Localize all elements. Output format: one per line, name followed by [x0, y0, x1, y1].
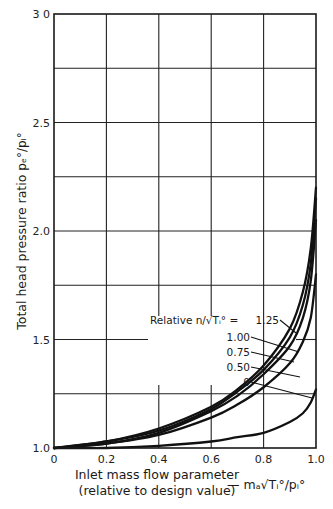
x-tick-label: 1.0	[307, 453, 325, 466]
x-axis-formula: — mₐ√Tᵢ°/pᵢ°	[227, 477, 305, 492]
x-tick-label: 0.4	[150, 453, 168, 466]
x-axis-label-line2: (relative to design value)	[79, 483, 236, 498]
legend-entry: 1.25	[256, 314, 279, 326]
legend: Relative n/√Tᵢ° =1.251.000.750.500	[150, 314, 312, 398]
legend-entry: 0	[243, 376, 250, 388]
pressure-ratio-chart: 1.01.52.02.53 0 00.20.40.60.81.0 Relativ…	[0, 0, 333, 509]
legend-entry: 1.00	[227, 331, 250, 343]
x-axis-ticks: 00.20.40.60.81.0	[51, 453, 325, 466]
y-tick-label: 1.5	[33, 334, 51, 347]
legend-entry: 0.50	[227, 361, 250, 373]
curve-speed-0-75	[54, 220, 316, 448]
x-tick-label: 0	[51, 453, 58, 466]
y-axis-label: Total head pressure ratio pₑ°/pᵢ°	[14, 132, 29, 331]
x-axis-label-line1: Inlet mass flow parameter	[75, 467, 240, 482]
y-axis-formula: pₑ°/pᵢ°	[15, 132, 29, 170]
legend-entry: 0.75	[227, 346, 250, 358]
grid-lines	[54, 14, 316, 448]
legend-title: Relative n/√Tᵢ° =	[150, 314, 238, 326]
y-tick-label: 3 0	[33, 8, 51, 21]
y-tick-label: 2.5	[33, 117, 51, 130]
y-axis-ticks: 1.01.52.02.53 0	[33, 8, 51, 455]
y-tick-label: 1.0	[33, 442, 51, 455]
x-tick-label: 0.8	[255, 453, 273, 466]
x-tick-label: 0.6	[202, 453, 220, 466]
x-tick-label: 0.2	[98, 453, 116, 466]
y-tick-label: 2.0	[33, 225, 51, 238]
